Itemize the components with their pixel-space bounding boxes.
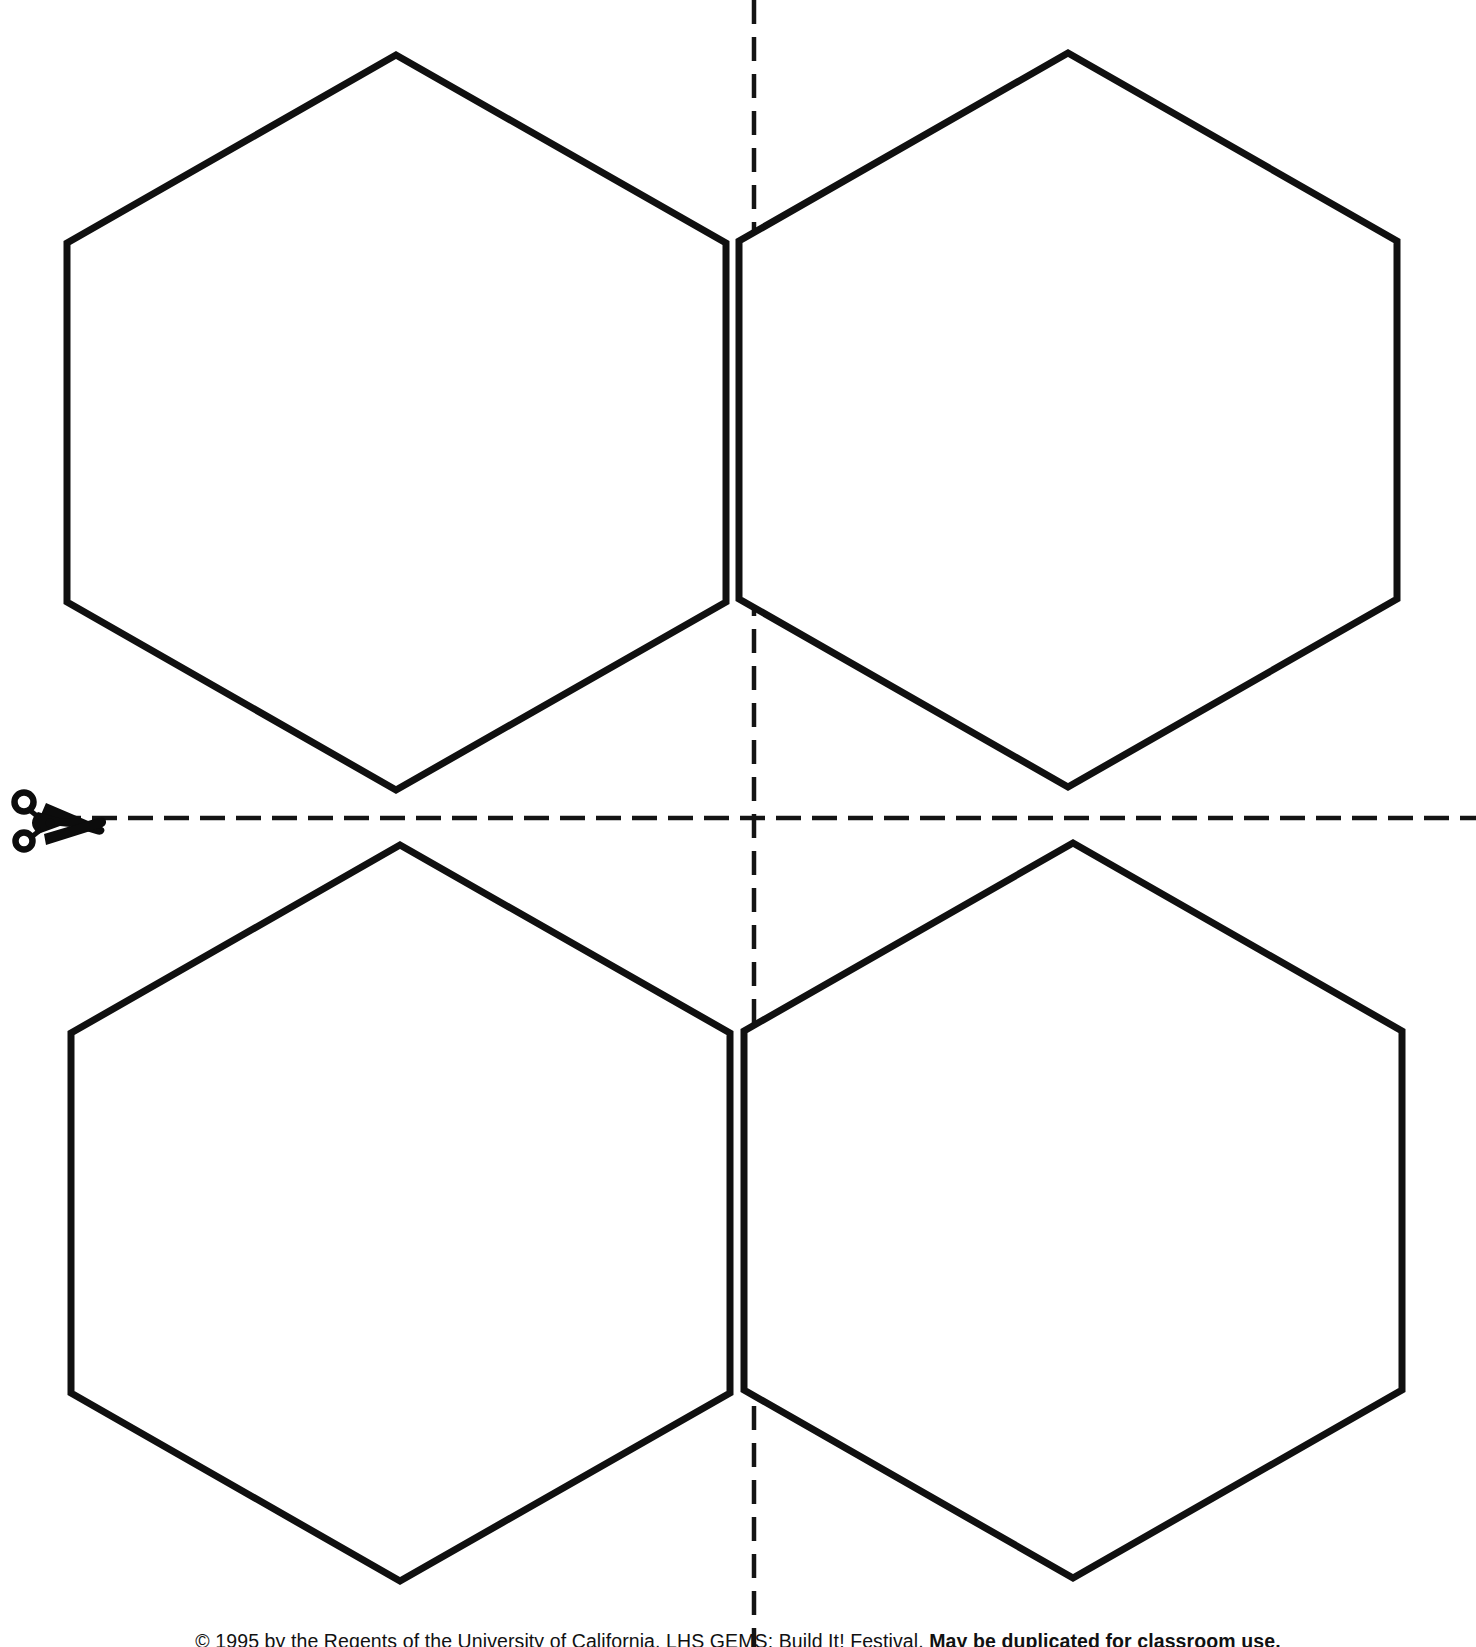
copyright-credit: © 1995 by the Regents of the University … — [0, 1628, 1476, 1647]
hexagon-bottom-right — [744, 843, 1402, 1578]
hexagon-top-left — [67, 55, 726, 790]
worksheet-page: © 1995 by the Regents of the University … — [0, 0, 1476, 1647]
credit-bold-text: May be duplicated for classroom use. — [929, 1630, 1280, 1647]
hexagon-top-right — [739, 53, 1397, 787]
hexagon-sheet — [0, 0, 1476, 1647]
hexagon-bottom-left — [71, 845, 730, 1581]
credit-regular-text: © 1995 by the Regents of the University … — [195, 1630, 923, 1647]
scissors-icon — [15, 793, 107, 850]
